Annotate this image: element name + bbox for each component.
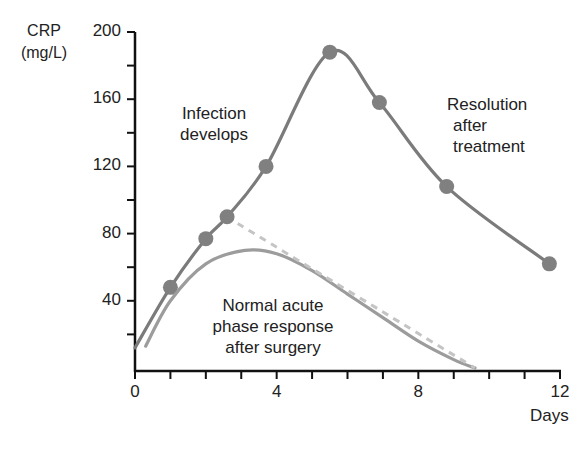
x-axis-title: Days	[530, 406, 569, 426]
annotation-normal-response: Normal acute phase response after surger…	[198, 295, 348, 358]
y-tick-label: 160	[77, 88, 121, 108]
data-point-marker	[198, 231, 213, 246]
y-tick-label: 40	[77, 290, 121, 310]
annotation-infection: Infection develops	[180, 103, 248, 145]
x-tick-label: 4	[257, 382, 297, 402]
annotation-resolution: Resolution after treatment	[447, 94, 527, 157]
x-tick-label: 0	[115, 382, 155, 402]
data-point-marker	[259, 159, 274, 174]
x-tick-label: 8	[398, 382, 438, 402]
y-tick-label: 200	[77, 21, 121, 41]
data-point-marker	[220, 209, 235, 224]
y-tick-label: 80	[77, 223, 121, 243]
x-tick-label: 12	[540, 382, 580, 402]
data-point-marker	[372, 95, 387, 110]
data-point-marker	[542, 256, 557, 271]
data-point-marker	[322, 45, 337, 60]
y-tick-label: 120	[77, 155, 121, 175]
data-point-marker	[439, 179, 454, 194]
